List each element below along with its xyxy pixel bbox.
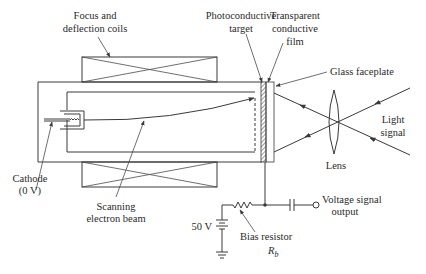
tube-envelope <box>38 82 262 162</box>
label-focus-coils-1: Focus and <box>74 10 118 21</box>
label-glass-faceplate: Glass faceplate <box>330 66 394 77</box>
bias-circuit <box>216 162 319 258</box>
label-output-2: output <box>332 206 359 217</box>
output-terminal <box>313 202 319 208</box>
capacitor-icon <box>290 199 294 211</box>
label-cathode-1: Cathode <box>13 173 48 184</box>
ground-icon <box>216 252 228 258</box>
focus-coil-top <box>82 57 217 82</box>
glass-faceplate <box>266 82 274 162</box>
label-light-2: signal <box>380 127 405 138</box>
label-film-2: conductive <box>272 23 318 34</box>
vidicon-diagram: Focus and deflection coils Photoconducti… <box>0 0 426 274</box>
focus-coil-bottom <box>82 162 217 187</box>
label-focus-coils-2: deflection coils <box>63 23 127 34</box>
label-light-1: Light <box>382 114 405 125</box>
battery-icon <box>216 218 228 252</box>
label-bias-resistor: Bias resistor <box>240 231 293 242</box>
label-beam-2: electron beam <box>86 213 145 224</box>
scanning-beam <box>84 98 254 120</box>
photoconductive-target <box>261 82 266 162</box>
label-target-1: Photoconductive <box>206 10 277 21</box>
label-film-3: film <box>286 36 304 47</box>
label-beam-1: Scanning <box>96 201 136 212</box>
inner-electrode <box>67 92 255 152</box>
label-50v: 50 V <box>191 221 212 232</box>
label-output-1: Voltage signal <box>322 194 382 205</box>
label-target-2: target <box>229 23 253 34</box>
electron-gun <box>44 111 84 129</box>
label-cathode-2: (0 V) <box>19 185 42 197</box>
label-film-1: Transparent <box>270 10 320 21</box>
label-rb: Rb <box>267 245 278 259</box>
heater-filament-icon <box>70 119 79 121</box>
label-lens: Lens <box>326 160 346 171</box>
